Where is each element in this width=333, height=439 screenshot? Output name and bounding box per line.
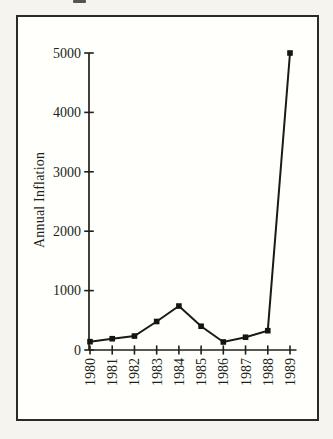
data-point-marker [221, 339, 227, 345]
x-tick-label: 1981 [105, 358, 120, 386]
scanned-page: Annual Inflation 01000200030004000500019… [0, 0, 333, 439]
data-point-marker [243, 334, 249, 340]
data-point-marker [154, 319, 160, 325]
data-point-marker [109, 336, 115, 342]
data-point-marker [265, 328, 271, 334]
data-line [90, 53, 290, 342]
y-tick-label: 3000 [53, 165, 81, 180]
data-point-marker [198, 323, 204, 329]
annual-inflation-line-chart: 0100020003000400050001980198119821983198… [0, 0, 333, 439]
x-tick-label: 1983 [150, 358, 165, 386]
data-point-marker [87, 339, 93, 345]
y-tick-label: 1000 [53, 283, 81, 298]
x-tick-label: 1984 [172, 358, 187, 386]
y-tick-label: 2000 [53, 224, 81, 239]
data-point-marker [132, 333, 138, 339]
y-tick-label: 5000 [53, 46, 81, 61]
y-tick-label: 0 [74, 343, 81, 358]
x-tick-label: 1988 [261, 358, 276, 386]
data-point-marker [176, 303, 182, 309]
x-tick-label: 1989 [283, 358, 298, 386]
x-tick-label: 1986 [216, 358, 231, 386]
x-tick-label: 1980 [83, 358, 98, 386]
data-point-marker [287, 50, 293, 56]
x-tick-label: 1987 [239, 358, 254, 386]
y-tick-label: 4000 [53, 105, 81, 120]
x-tick-label: 1985 [194, 358, 209, 386]
x-tick-label: 1982 [127, 358, 142, 386]
